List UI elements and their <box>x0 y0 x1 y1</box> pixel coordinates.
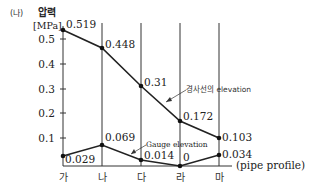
svg-text:경사선의 elevation: 경사선의 elevation <box>186 84 251 94</box>
svg-text:0.3: 0.3 <box>38 83 55 95</box>
svg-text:0.029: 0.029 <box>65 153 95 165</box>
svg-text:0.31: 0.31 <box>144 76 167 88</box>
y-tick-labels: 0.5 0.4 0.3 0.2 0.1 <box>38 33 55 144</box>
svg-text:Gauge elevation: Gauge elevation <box>146 140 208 149</box>
svg-text:가: 가 <box>59 172 68 183</box>
annotation-elevation: 경사선의 elevation <box>166 84 251 102</box>
svg-text:0.1: 0.1 <box>38 132 55 144</box>
svg-text:0.519: 0.519 <box>66 18 96 30</box>
svg-text:0.2: 0.2 <box>38 107 55 119</box>
series-elevation-line: 0.519 0.448 0.31 0.172 0.103 <box>61 18 252 143</box>
x-axis-title: (pipe profile) <box>236 159 305 171</box>
y-axis-title: 압력 <box>38 6 56 18</box>
svg-text:0.069: 0.069 <box>105 131 135 143</box>
svg-text:0.4: 0.4 <box>38 58 55 70</box>
svg-text:0.103: 0.103 <box>222 131 252 143</box>
svg-text:0.5: 0.5 <box>38 33 55 45</box>
pressure-chart: (나) 압력 [MPa] 0.5 0.4 0.3 0.2 0.1 가 나 다 라… <box>0 0 310 193</box>
svg-text:라: 라 <box>176 172 185 183</box>
svg-text:0.448: 0.448 <box>105 38 135 50</box>
svg-text:0: 0 <box>183 151 190 163</box>
svg-text:0.034: 0.034 <box>222 148 252 160</box>
panel-label: (나) <box>10 9 23 18</box>
svg-text:다: 다 <box>137 172 146 183</box>
x-category-labels: 가 나 다 라 마 <box>59 172 224 183</box>
svg-text:나: 나 <box>98 172 107 183</box>
y-axis-unit: [MPa] <box>33 20 62 31</box>
svg-text:마: 마 <box>215 172 224 183</box>
svg-text:0.014: 0.014 <box>144 149 174 161</box>
svg-text:0.172: 0.172 <box>183 110 213 122</box>
